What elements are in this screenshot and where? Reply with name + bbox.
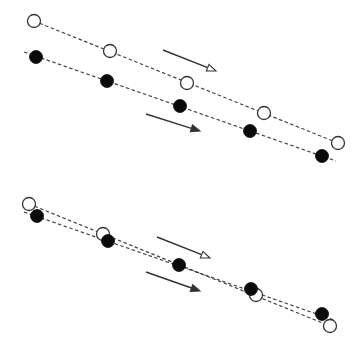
particle-chain-diagram: [0, 0, 363, 352]
diagram-canvas: [0, 0, 363, 352]
filled-circle-marker: [31, 210, 44, 223]
open-circle-marker: [28, 15, 41, 28]
filled-circle-marker: [102, 235, 115, 248]
open-circle-marker: [23, 198, 36, 211]
filled-circle-marker: [173, 259, 186, 272]
open-arrow-hollow-icon: [163, 50, 216, 71]
open-circle-marker: [258, 107, 271, 120]
open-arrow-hollow-icon: [157, 237, 210, 258]
filled-circle-marker: [245, 283, 258, 296]
filled-circle-marker: [174, 100, 187, 113]
filled-arrow-solid-icon: [146, 272, 200, 291]
open-circle-marker: [181, 77, 194, 90]
open-circle-marker: [324, 320, 337, 333]
top-panel: [24, 15, 345, 163]
filled-circle-marker: [30, 51, 43, 64]
filled-circle-marker: [244, 125, 257, 138]
filled-circle-marker: [316, 308, 329, 321]
filled-arrow-solid-icon: [146, 114, 200, 132]
filled-circle-marker: [101, 75, 114, 88]
bottom-panel: [23, 198, 337, 333]
filled-circle-marker: [316, 150, 329, 163]
open-circle-marker: [332, 137, 345, 150]
open-circle-marker: [104, 45, 117, 58]
